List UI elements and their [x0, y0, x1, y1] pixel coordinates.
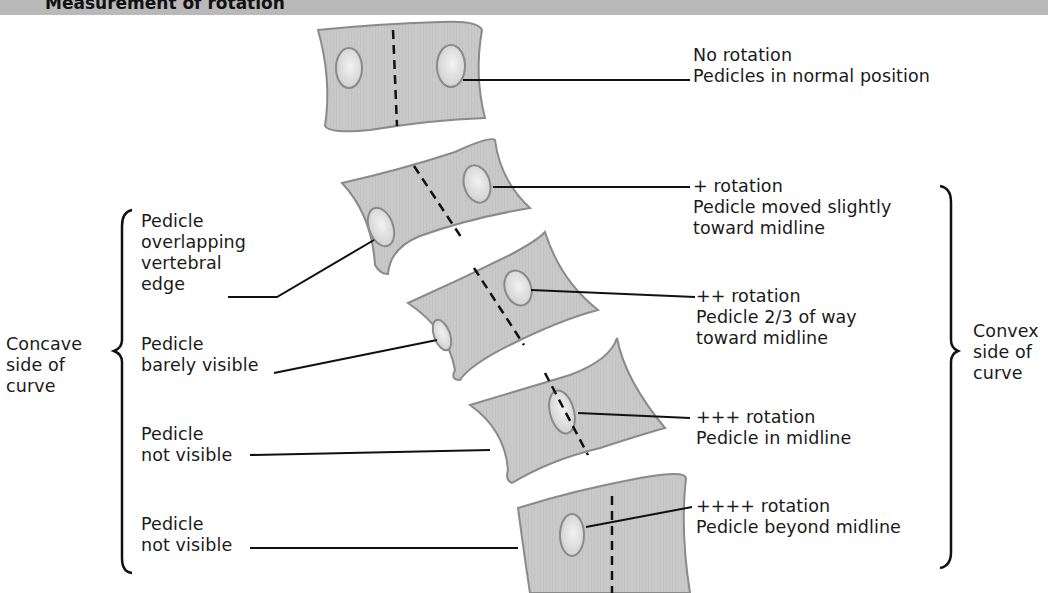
pedicle-left	[336, 48, 362, 88]
vertebra-plusplus-rotation	[408, 232, 598, 380]
label-line: Concave	[6, 334, 82, 355]
description-text: Pedicle beyond midline	[696, 517, 901, 538]
description-text: Pedicle moved slightly	[693, 197, 891, 218]
vertebra-plusplusplusplus-rotation	[518, 474, 690, 593]
label-line: barely visible	[141, 355, 259, 376]
vertebra-plus-rotation	[342, 139, 530, 274]
grade-text: + rotation	[693, 176, 891, 197]
concave-brace	[114, 210, 132, 573]
description-text: Pedicles in normal position	[693, 66, 930, 87]
grade-text: No rotation	[693, 45, 930, 66]
vertebra-plusplusplus-rotation	[470, 338, 665, 483]
label-plusplus-rotation: ++ rotation Pedicle 2/3 of way toward mi…	[696, 286, 857, 349]
label-no-rotation: No rotation Pedicles in normal position	[693, 45, 930, 87]
label-line: Pedicle	[141, 424, 232, 445]
grade-text: ++++ rotation	[696, 496, 901, 517]
description-text: Pedicle in midline	[696, 428, 851, 449]
label-line: not visible	[141, 445, 232, 466]
label-line: edge	[141, 274, 246, 295]
label-pedicle-overlapping: Pedicle overlapping vertebral edge	[141, 211, 246, 295]
description-text: toward midline	[696, 328, 857, 349]
label-line: overlapping	[141, 232, 246, 253]
label-line: Pedicle	[141, 514, 232, 535]
label-line: not visible	[141, 535, 232, 556]
label-concave-side: Concave side of curve	[6, 334, 82, 397]
vertebra-no-rotation	[318, 22, 485, 132]
grade-text: +++ rotation	[696, 407, 851, 428]
description-text: Pedicle 2/3 of way	[696, 307, 857, 328]
label-line: Pedicle	[141, 334, 259, 355]
label-line: vertebral	[141, 253, 246, 274]
label-pedicle-barely-visible: Pedicle barely visible	[141, 334, 259, 376]
label-line: curve	[6, 376, 82, 397]
label-pedicle-not-visible-2: Pedicle not visible	[141, 514, 232, 556]
description-text: toward midline	[693, 218, 891, 239]
label-line: side of	[973, 342, 1039, 363]
label-pedicle-not-visible-1: Pedicle not visible	[141, 424, 232, 466]
label-plusplusplusplus-rotation: ++++ rotation Pedicle beyond midline	[696, 496, 901, 538]
label-plusplusplus-rotation: +++ rotation Pedicle in midline	[696, 407, 851, 449]
label-convex-side: Convex side of curve	[973, 321, 1039, 384]
convex-brace	[940, 186, 958, 568]
label-line: curve	[973, 363, 1039, 384]
pedicle-right-beyond-midline	[560, 514, 584, 556]
label-plus-rotation: + rotation Pedicle moved slightly toward…	[693, 176, 891, 239]
grade-text: ++ rotation	[696, 286, 857, 307]
label-line: Pedicle	[141, 211, 246, 232]
pedicle-right	[437, 45, 465, 87]
label-line: side of	[6, 355, 82, 376]
label-line: Convex	[973, 321, 1039, 342]
